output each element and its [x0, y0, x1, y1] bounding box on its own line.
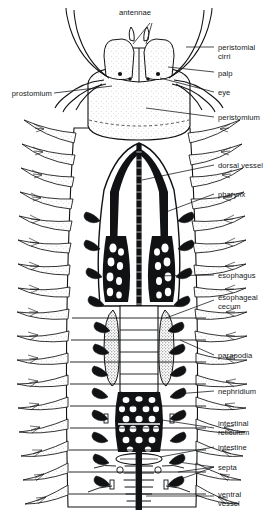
parapodia-left	[17, 120, 76, 504]
label-intestine: intestine	[218, 443, 278, 452]
label-palp: palp	[218, 69, 278, 78]
label-prostomium: prostomium	[0, 89, 52, 98]
label-pharynx: pharynx	[218, 190, 278, 199]
esophagus	[120, 306, 158, 395]
label-peristomial-cirri: peristomial cirri	[218, 43, 278, 61]
label-peristomium: peristomium	[218, 113, 278, 122]
label-eye: eye	[218, 88, 278, 97]
label-esophageal-cecum: esophageal cecum	[218, 293, 278, 311]
head-region	[55, 8, 223, 140]
label-parapodia: parapodia	[218, 351, 278, 360]
label-antennae: antennae	[104, 8, 166, 17]
antennae	[129, 27, 149, 41]
intestinal-reticulum	[115, 392, 163, 452]
figure-root: antennae peristomial cirri palp prostomi…	[0, 0, 278, 517]
label-esophagus: esophagus	[218, 271, 278, 280]
label-nephridium: nephridium	[218, 387, 278, 396]
label-dorsal-vessel: dorsal vessel	[218, 161, 278, 170]
label-septa: septa	[218, 463, 278, 472]
dorsal-vessel	[136, 144, 141, 330]
label-ventral-vessel: ventral vessel	[218, 490, 278, 508]
label-intestinal-reticulum: intestinal reticulum	[218, 419, 278, 437]
